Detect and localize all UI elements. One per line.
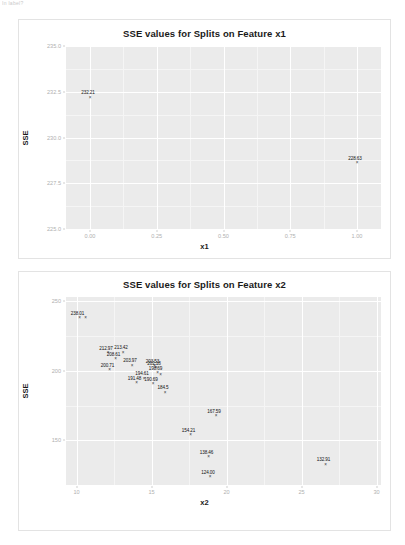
gridline-minor-horizontal	[66, 406, 381, 407]
x-tick-label: 0.75	[285, 233, 296, 239]
data-point-label: 232.21	[81, 90, 94, 95]
plot-area-x2: 238.01212.97208.61213.42203.97200.71203.…	[66, 297, 381, 485]
x-tick-label: 1.00	[352, 233, 363, 239]
data-point-marker	[152, 382, 155, 385]
data-point-label: 203.97	[123, 358, 136, 363]
x-tick-label: 25	[298, 489, 304, 495]
data-point-marker	[355, 161, 358, 164]
chart-panel-x2: SSE values for Splits on Feature x2 SSE …	[18, 271, 391, 531]
x-tick-label: 20	[223, 489, 229, 495]
gridline-major-vertical	[77, 297, 78, 485]
data-point-label: 208.61	[107, 352, 120, 357]
data-point-label: 212.97	[99, 346, 112, 351]
y-tickmark	[63, 229, 65, 230]
x-tick-label: 10	[73, 489, 79, 495]
x-tickmark	[156, 230, 157, 232]
data-point-marker	[122, 351, 125, 354]
data-point-marker	[135, 381, 138, 384]
data-point-marker	[108, 368, 111, 371]
x-tick-label: 0.50	[218, 233, 229, 239]
data-point-marker	[131, 364, 134, 367]
gridline-major-horizontal	[66, 138, 381, 139]
y-tick-label: 150	[19, 437, 61, 443]
y-tickmark	[63, 370, 65, 371]
data-point-label: 167.59	[207, 409, 220, 414]
data-point-label: 138.46	[200, 450, 213, 455]
gridline-major-horizontal	[66, 183, 381, 184]
data-point-marker	[89, 96, 92, 99]
gridline-major-vertical	[302, 297, 303, 485]
x-tickmark	[356, 230, 357, 232]
y-tick-label: 200	[19, 368, 61, 374]
gridline-minor-vertical	[189, 297, 190, 485]
data-point-label: 213.42	[114, 345, 127, 350]
page-root: In label? SSE values for Splits on Featu…	[0, 0, 405, 545]
x-axis-title-x1: x1	[19, 242, 390, 251]
chart-title-x2: SSE values for Splits on Feature x2	[19, 279, 390, 290]
data-point-label: 184.5	[158, 385, 169, 390]
y-tick-label: 225.0	[19, 226, 61, 232]
y-tickmark	[63, 137, 65, 138]
data-point-label: 154.21	[182, 428, 195, 433]
x-tickmark	[223, 230, 224, 232]
plot-area-x1: 232.21228.63	[66, 46, 381, 229]
data-point-marker	[84, 316, 87, 319]
data-point-marker	[324, 463, 327, 466]
data-point-label: 198.69	[149, 366, 162, 371]
data-point-marker	[207, 455, 210, 458]
data-point-marker	[114, 357, 117, 360]
cut-off-text: In label?	[2, 0, 72, 6]
gridline-minor-vertical	[114, 297, 115, 485]
gridline-major-vertical	[227, 297, 228, 485]
data-point-label: 124.00	[201, 470, 214, 475]
gridline-major-horizontal	[66, 440, 381, 441]
data-point-marker	[159, 373, 162, 376]
y-tickmark	[63, 301, 65, 302]
x-tickmark	[76, 486, 77, 488]
chart-panel-x1: SSE values for Splits on Feature x1 SSE …	[18, 19, 391, 259]
x-tick-label: 30	[373, 489, 379, 495]
x-tickmark	[90, 230, 91, 232]
data-point-label: 190.69	[144, 377, 157, 382]
chart-title-x1: SSE values for Splits on Feature x1	[19, 28, 390, 39]
data-point-marker	[209, 475, 212, 478]
data-point-marker	[215, 414, 218, 417]
data-point-label: 200.71	[101, 363, 114, 368]
gridline-major-vertical	[377, 297, 378, 485]
gridline-major-vertical	[152, 297, 153, 485]
x-tick-label: 15	[148, 489, 154, 495]
y-tickmark	[63, 440, 65, 441]
gridline-minor-horizontal	[66, 336, 381, 337]
gridline-minor-vertical	[264, 297, 265, 485]
y-tick-label: 230.0	[19, 135, 61, 141]
data-point-label: 191.48	[128, 376, 141, 381]
x-tickmark	[301, 486, 302, 488]
y-tick-label: 250	[19, 298, 61, 304]
data-point-marker	[189, 433, 192, 436]
x-tickmark	[151, 486, 152, 488]
x-tick-label: 0.00	[85, 233, 96, 239]
y-tickmark	[63, 91, 65, 92]
gridline-major-horizontal	[66, 46, 381, 47]
data-point-label: 228.63	[348, 156, 361, 161]
y-tick-label: 235.0	[19, 43, 61, 49]
x-tickmark	[376, 486, 377, 488]
x-tickmark	[290, 230, 291, 232]
y-tick-label: 232.5	[19, 89, 61, 95]
data-point-label: 238.01	[71, 311, 84, 316]
y-axis-title-x2: SSE	[21, 383, 30, 398]
gridline-minor-vertical	[339, 297, 340, 485]
data-point-marker	[164, 391, 167, 394]
y-tick-label: 227.5	[19, 180, 61, 186]
gridline-major-horizontal	[66, 301, 381, 302]
gridline-major-horizontal	[66, 371, 381, 372]
y-tickmark	[63, 183, 65, 184]
x-tick-label: 0.25	[151, 233, 162, 239]
data-point-label: 132.91	[317, 457, 330, 462]
x-axis-title-x2: x2	[19, 498, 390, 507]
data-point-marker	[78, 316, 81, 319]
gridline-major-horizontal	[66, 92, 381, 93]
y-tickmark	[63, 46, 65, 47]
x-tickmark	[226, 486, 227, 488]
